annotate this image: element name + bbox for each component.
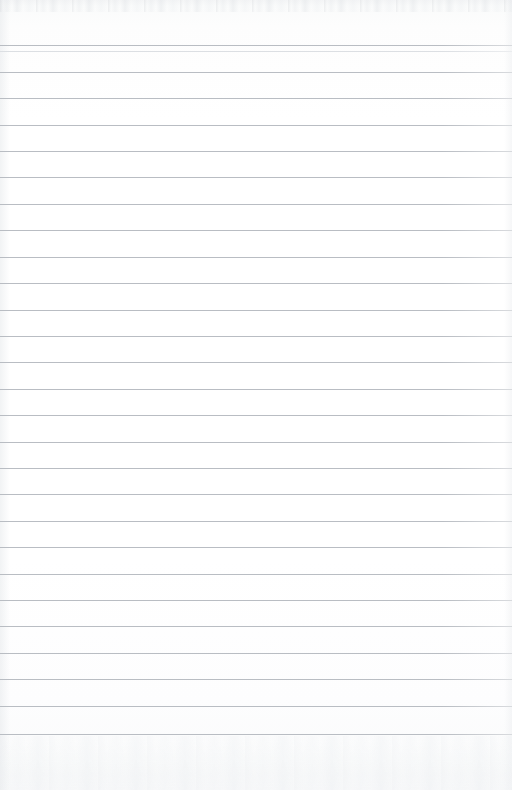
rule-line: [0, 442, 512, 443]
rule-line: [0, 230, 512, 231]
rule-line: [0, 125, 512, 126]
rule-line: [0, 574, 512, 575]
rule-line: [0, 626, 512, 627]
rule-line: [0, 45, 512, 46]
scanned-page: Blank lined notebook page: [0, 0, 512, 790]
rule-line: [0, 336, 512, 337]
rule-line: [0, 362, 512, 363]
rule-line: [0, 521, 512, 522]
rule-line: [0, 653, 512, 654]
rule-line: [0, 310, 512, 311]
rule-line: [0, 257, 512, 258]
rule-line: [0, 98, 512, 99]
rule-line: [0, 706, 512, 707]
rule-line: [0, 415, 512, 416]
rule-line: [0, 734, 512, 735]
ruled-lines-layer: [0, 0, 512, 790]
rule-line: [0, 204, 512, 205]
rule-line: [0, 547, 512, 548]
rule-line: [0, 177, 512, 178]
rule-line: [0, 151, 512, 152]
rule-line: [0, 600, 512, 601]
rule-line: [0, 468, 512, 469]
rule-line: [0, 72, 512, 73]
rule-line: [0, 51, 512, 52]
rule-line: [0, 679, 512, 680]
rule-line: [0, 389, 512, 390]
rule-line: [0, 283, 512, 284]
scan-noise-bottom-band: [0, 736, 512, 790]
rule-line: [0, 494, 512, 495]
